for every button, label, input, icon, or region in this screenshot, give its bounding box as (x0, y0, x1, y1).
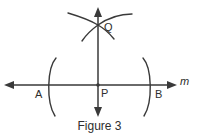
figure-container: Q P A B m Figure 3 (0, 0, 199, 139)
construction-arc-A (49, 58, 56, 116)
line-label-m: m (180, 76, 189, 87)
figure-caption: Figure 3 (0, 119, 199, 133)
point-label-Q: Q (104, 22, 113, 33)
point-label-P: P (101, 88, 108, 99)
line-m-left-arrowhead (4, 81, 14, 89)
line-m-right-arrowhead (167, 81, 177, 89)
construction-arc-B (143, 58, 150, 116)
point-label-A: A (35, 89, 42, 100)
perpendicular-bottom-arrowhead (94, 107, 102, 117)
point-P-marker (96, 83, 100, 87)
perpendicular-top-arrowhead (94, 7, 102, 17)
point-label-B: B (155, 89, 162, 100)
line-m-group (4, 81, 177, 89)
